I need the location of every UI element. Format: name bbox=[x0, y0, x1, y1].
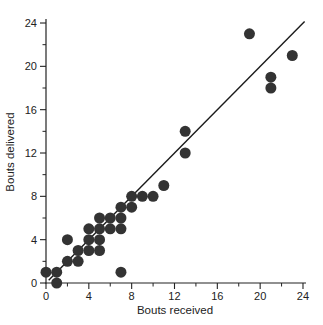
y-tick-label: 20 bbox=[25, 60, 37, 72]
x-tick-label: 24 bbox=[297, 290, 309, 302]
data-point bbox=[244, 28, 255, 39]
data-point bbox=[265, 83, 276, 94]
y-tick-label: 8 bbox=[31, 190, 37, 202]
x-tick-label: 4 bbox=[86, 290, 92, 302]
x-tick-label: 8 bbox=[129, 290, 135, 302]
data-point bbox=[94, 245, 105, 256]
data-point bbox=[115, 213, 126, 224]
data-point bbox=[73, 256, 84, 267]
y-axis-title: Bouts delivered bbox=[4, 112, 16, 191]
data-point bbox=[126, 191, 137, 202]
data-point bbox=[148, 191, 159, 202]
scatter-plot-figure: 0481216202404812162024 Bouts received Bo… bbox=[0, 0, 323, 325]
data-point bbox=[94, 234, 105, 245]
data-point bbox=[287, 50, 298, 61]
y-tick-label: 24 bbox=[25, 17, 37, 29]
data-point bbox=[51, 278, 62, 289]
data-point bbox=[94, 223, 105, 234]
y-tick-label: 16 bbox=[25, 104, 37, 116]
data-point bbox=[158, 180, 169, 191]
x-tick-label: 12 bbox=[168, 290, 180, 302]
y-tick-label: 12 bbox=[25, 147, 37, 159]
data-point bbox=[115, 202, 126, 213]
data-point bbox=[105, 223, 116, 234]
data-point bbox=[62, 234, 73, 245]
data-point bbox=[265, 72, 276, 83]
data-point bbox=[126, 202, 137, 213]
y-tick-label: 4 bbox=[31, 234, 37, 246]
data-point bbox=[83, 223, 94, 234]
data-point bbox=[94, 213, 105, 224]
data-point bbox=[105, 213, 116, 224]
data-point bbox=[51, 267, 62, 278]
x-axis-title: Bouts received bbox=[137, 304, 213, 316]
data-point bbox=[137, 191, 148, 202]
x-tick-label: 16 bbox=[211, 290, 223, 302]
data-point bbox=[115, 223, 126, 234]
data-point bbox=[62, 256, 73, 267]
data-point bbox=[180, 148, 191, 159]
x-tick-label: 0 bbox=[43, 290, 49, 302]
data-point bbox=[41, 267, 52, 278]
data-point bbox=[73, 245, 84, 256]
data-point bbox=[115, 267, 126, 278]
x-tick-label: 20 bbox=[254, 290, 266, 302]
y-tick-label: 0 bbox=[31, 277, 37, 289]
data-point bbox=[83, 234, 94, 245]
bouts-scatter-chart: 0481216202404812162024 Bouts received Bo… bbox=[0, 0, 323, 325]
data-point bbox=[180, 126, 191, 137]
data-point bbox=[83, 245, 94, 256]
